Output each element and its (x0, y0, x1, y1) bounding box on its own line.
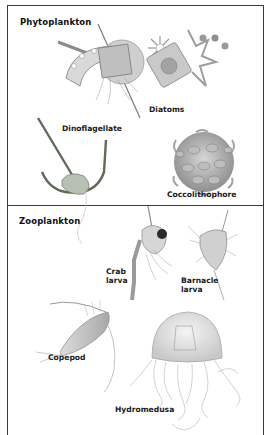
hydromedusa-label: Hydromedusa (115, 405, 174, 414)
dinoflagellate-label: Dinoflagellate (62, 124, 122, 133)
barnacle-larva-label-line2: larva (181, 285, 218, 294)
phytoplankton-heading: Phytoplankton (20, 17, 91, 27)
copepod-label: Copepod (48, 353, 85, 362)
coccolithophore-illustration (174, 130, 235, 195)
barnacle-larva-label-line1: Barnacle (181, 276, 218, 285)
crab-larva-label: Crab larva (106, 267, 128, 285)
barnacle-larva-label: Barnacle larva (181, 276, 218, 294)
crab-larva-label-line2: larva (106, 276, 128, 285)
crab-larva-illustration (132, 206, 172, 300)
copepod-illustration (36, 300, 115, 392)
zooplankton-heading: Zooplankton (19, 216, 80, 226)
diatoms-illustration (58, 24, 229, 118)
coccolithophore-label: Coccolithophore (167, 190, 236, 199)
crab-larva-label-line1: Crab (106, 267, 128, 276)
diatoms-label: Diatoms (149, 105, 184, 114)
